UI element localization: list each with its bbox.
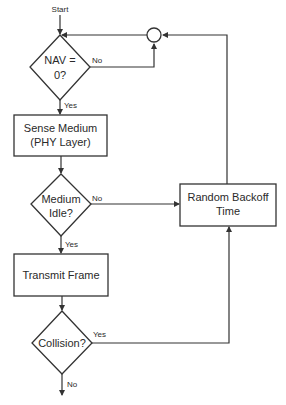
sense-medium-text-1: Sense Medium	[24, 122, 97, 134]
medium-idle-text-1: Medium	[41, 193, 80, 205]
sense-medium-text-2: (PHY Layer)	[30, 136, 90, 148]
medium-idle-decision	[31, 174, 91, 236]
start-label: Start	[52, 5, 70, 14]
collision-no-label: No	[67, 380, 78, 389]
backoff-return-edge	[163, 35, 227, 184]
nav-check-text-2: 0?	[54, 69, 66, 81]
transmit-frame-text: Transmit Frame	[22, 269, 99, 281]
collision-text: Collision?	[38, 337, 86, 349]
random-backoff-text-1: Random Backoff	[187, 191, 269, 203]
junction-circle	[147, 28, 161, 42]
flowchart: Start NAV = 0? No Yes Sense Medium (PHY …	[0, 0, 286, 405]
nav-check-decision	[30, 35, 90, 100]
collision-yes-edge	[92, 227, 229, 343]
idle-no-label: No	[92, 194, 103, 203]
collision-yes-label: Yes	[93, 330, 106, 339]
medium-idle-text-2: Idle?	[49, 207, 73, 219]
idle-yes-label: Yes	[65, 240, 78, 249]
nav-yes-label: Yes	[64, 101, 77, 110]
nav-check-text-1: NAV =	[44, 54, 75, 66]
random-backoff-text-2: Time	[216, 205, 240, 217]
nav-no-label: No	[92, 56, 103, 65]
